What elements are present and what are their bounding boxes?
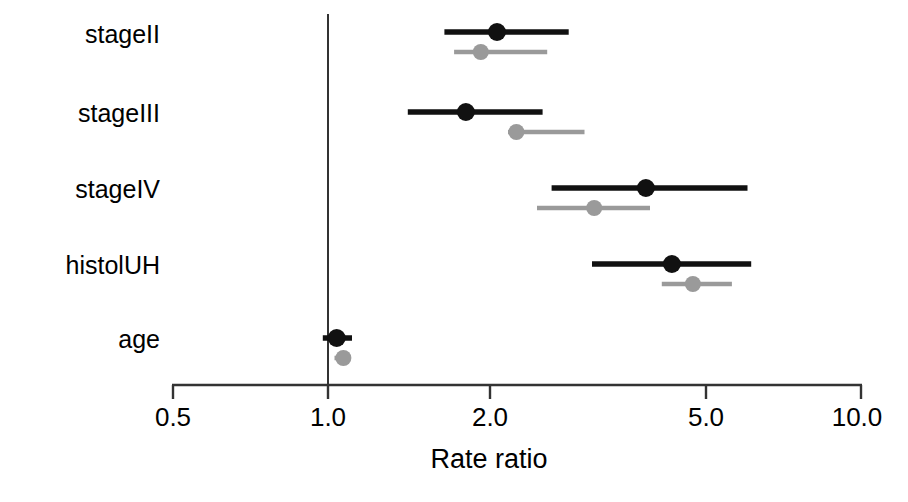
- x-tick-label-0: 0.5: [133, 404, 213, 430]
- series-gray: [335, 44, 732, 366]
- estimate-point-age-black: [328, 329, 346, 347]
- estimate-point-stageIV-gray: [586, 200, 602, 216]
- estimate-point-stageIII-gray: [508, 124, 524, 140]
- estimate-point-age-gray: [335, 350, 351, 366]
- x-tick-label-3: 5.0: [666, 404, 746, 430]
- estimate-point-histolUH-gray: [685, 276, 701, 292]
- estimate-point-histolUH-black: [663, 255, 681, 273]
- estimate-point-stageIV-black: [637, 179, 655, 197]
- x-axis-title-text: Rate ratio: [360, 444, 547, 474]
- x-axis: [172, 385, 862, 399]
- series-black: [323, 23, 751, 347]
- x-tick-label-2: 2.0: [450, 404, 530, 430]
- x-tick-label-4: 10.0: [812, 404, 902, 430]
- estimate-point-stageII-black: [488, 23, 506, 41]
- x-tick-label-1: 1.0: [288, 404, 368, 430]
- x-axis-title: Rate ratio: [0, 446, 908, 473]
- forest-plot: stageII stageIII stageIV histolUH age 0.…: [0, 0, 908, 502]
- estimate-point-stageII-gray: [473, 44, 489, 60]
- estimate-point-stageIII-black: [457, 103, 475, 121]
- series-layer: [323, 23, 751, 366]
